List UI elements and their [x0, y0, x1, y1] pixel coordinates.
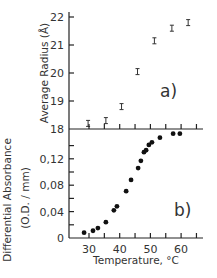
error-bar-point — [104, 118, 108, 124]
x-ticks-divider — [89, 124, 196, 129]
data-point — [136, 166, 141, 171]
error-bar-point — [136, 69, 140, 75]
y-tick-label: 0,04 — [40, 206, 65, 219]
data-point — [171, 131, 176, 136]
x-ticks: 30405060 — [82, 233, 196, 256]
y-ticks-a: 1819202122 — [50, 11, 74, 136]
data-point — [82, 230, 87, 235]
data-point — [129, 178, 134, 183]
data-points-a — [86, 20, 190, 127]
data-point — [144, 148, 149, 153]
y-tick-label: 0,08 — [40, 179, 65, 192]
panel-label-b: b) — [174, 200, 191, 220]
y-tick-label: 20 — [50, 67, 64, 80]
y-axis-label-a: Average Radius (Å) — [38, 23, 50, 123]
data-point — [115, 204, 120, 209]
y-tick-label: 0,12 — [40, 153, 65, 166]
y-tick-label: 18 — [50, 123, 64, 136]
y-tick-label: 19 — [50, 95, 64, 108]
data-point — [96, 226, 101, 231]
error-bar-point — [170, 25, 174, 31]
x-axis-label: Temperature, °C — [92, 254, 179, 266]
y-tick-label: 0 — [57, 232, 64, 245]
error-bar-point — [120, 104, 124, 110]
y-axis-label-b: Differential Absorbance — [1, 138, 13, 262]
data-point — [91, 228, 96, 233]
chart: Average Radius (Å) 1819202122 a) Differe… — [0, 0, 217, 278]
y-tick-label: 21 — [50, 39, 64, 52]
data-point — [177, 131, 182, 136]
panel-a: Average Radius (Å) 1819202122 a) — [38, 11, 190, 136]
y-tick-label: 22 — [50, 11, 64, 24]
data-points-b — [82, 131, 183, 235]
y-axis-units-b: (O.D. / mm) — [19, 167, 31, 228]
error-bar-point — [152, 38, 156, 44]
data-point — [138, 158, 143, 163]
data-point — [150, 140, 155, 145]
data-point — [124, 189, 129, 194]
panel-label-a: a) — [160, 81, 177, 101]
data-point — [111, 208, 116, 213]
panel-b: Differential Absorbance (O.D. / mm) 0,12… — [1, 131, 196, 266]
data-point — [158, 135, 163, 140]
error-bar-point — [186, 20, 190, 26]
data-point — [103, 220, 108, 225]
